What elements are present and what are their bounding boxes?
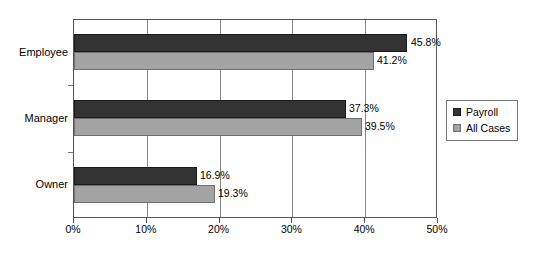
x-axis-label-20: 20% bbox=[208, 223, 229, 235]
category-label-manager: Manager bbox=[25, 112, 68, 124]
all-cases-swatch-icon bbox=[453, 124, 461, 132]
bar-value-owner-payroll: 16.9% bbox=[200, 170, 230, 181]
bar-owner-payroll bbox=[74, 167, 197, 185]
legend-item-all-cases: All Cases bbox=[453, 122, 511, 134]
bar-group-manager: 37.3% 39.5% bbox=[74, 86, 436, 152]
bar-manager-payroll bbox=[74, 100, 346, 118]
chart-legend: Payroll All Cases bbox=[446, 100, 518, 141]
bar-value-employee-all-cases: 41.2% bbox=[377, 55, 407, 66]
x-axis-label-10: 10% bbox=[135, 223, 156, 235]
payroll-swatch-icon bbox=[453, 108, 461, 116]
y-axis-tick-1 bbox=[68, 85, 73, 86]
legend-label-payroll: Payroll bbox=[466, 106, 498, 118]
bar-value-employee-payroll: 45.8% bbox=[411, 37, 441, 48]
bar-owner-all-cases bbox=[74, 185, 215, 203]
x-axis-label-50: 50% bbox=[426, 223, 447, 235]
x-axis-label-40: 40% bbox=[354, 223, 375, 235]
y-axis-labels: Employee Manager Owner bbox=[0, 19, 68, 218]
category-label-owner: Owner bbox=[36, 178, 68, 190]
bar-value-manager-payroll: 37.3% bbox=[349, 103, 379, 114]
x-axis-label-30: 30% bbox=[281, 223, 302, 235]
y-axis-tick-2 bbox=[68, 152, 73, 153]
legend-item-payroll: Payroll bbox=[453, 106, 511, 118]
plot-area: 45.8% 41.2% 37.3% 39.5% 16.9% 19.3% bbox=[73, 19, 437, 218]
bar-employee-payroll bbox=[74, 34, 407, 52]
x-axis-label-0: 0% bbox=[65, 223, 80, 235]
bar-employee-all-cases bbox=[74, 52, 374, 70]
bar-value-owner-all-cases: 19.3% bbox=[218, 188, 248, 199]
bar-value-manager-all-cases: 39.5% bbox=[365, 121, 395, 132]
bar-group-owner: 16.9% 19.3% bbox=[74, 153, 436, 219]
x-axis-labels: 0% 10% 20% 30% 40% 50% bbox=[0, 223, 539, 243]
bar-group-employee: 45.8% 41.2% bbox=[74, 20, 436, 86]
bar-manager-all-cases bbox=[74, 118, 362, 136]
category-label-employee: Employee bbox=[19, 46, 68, 58]
bar-chart: 45.8% 41.2% 37.3% 39.5% 16.9% 19.3% Empl… bbox=[0, 0, 539, 254]
legend-label-all-cases: All Cases bbox=[466, 122, 510, 134]
